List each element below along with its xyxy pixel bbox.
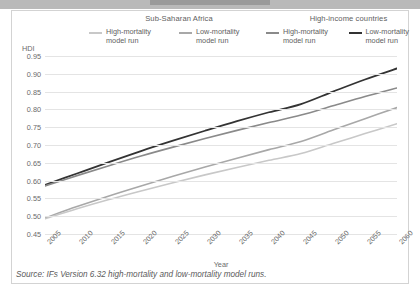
- y-axis-tick-label: 0.90: [27, 69, 41, 78]
- legend-item-hic-high-mortality[interactable]: High-mortality model run: [266, 28, 349, 45]
- legend-swatch-line-icon: [179, 32, 192, 34]
- y-axis-tick-label: 0.70: [27, 141, 41, 150]
- legend-group-title: Sub-Saharan Africa: [89, 14, 269, 23]
- legend-label-line2: model run: [106, 36, 138, 45]
- legend-swatch-line-icon: [266, 32, 279, 34]
- legend-label-line2: model run: [366, 36, 398, 45]
- y-axis-tick-label: 0.50: [27, 212, 41, 221]
- legend-item-label: Low-mortality model run: [366, 28, 409, 45]
- top-gray-band: [0, 0, 420, 9]
- legend-item-label: High-mortality model run: [106, 28, 151, 45]
- figure-container: Sub-Saharan Africa High-mortality model …: [0, 0, 420, 295]
- y-axis-tick-label: 0.45: [27, 230, 41, 239]
- gridline: [45, 145, 397, 146]
- top-band-highlight: [150, 0, 270, 5]
- gridline: [45, 127, 397, 128]
- legend-label-line2: model run: [196, 36, 228, 45]
- source-note: Source: IFs Version 6.32 high-mortality …: [16, 270, 266, 279]
- legend-label-line2: model run: [283, 36, 315, 45]
- legend-item-label: Low-mortality model run: [196, 28, 239, 45]
- legend-item-hic-low-mortality[interactable]: Low-mortality model run: [349, 28, 420, 45]
- gridline: [45, 74, 397, 75]
- gridline: [45, 109, 397, 110]
- y-axis-tick-label: 0.95: [27, 52, 41, 61]
- y-axis-tick-label: 0.55: [27, 194, 41, 203]
- legend-group-sub-saharan-africa: Sub-Saharan Africa High-mortality model …: [89, 14, 269, 45]
- gridline: [45, 163, 397, 164]
- gridline: [45, 216, 397, 217]
- gridline: [45, 198, 397, 199]
- gridline: [45, 181, 397, 182]
- legend-item-label: High-mortality model run: [283, 28, 328, 45]
- y-axis-tick-label: 0.60: [27, 176, 41, 185]
- legend-item-ssa-high-mortality[interactable]: High-mortality model run: [89, 28, 179, 45]
- y-axis-tick-label: 0.65: [27, 158, 41, 167]
- legend-swatch-line-icon: [89, 32, 102, 34]
- legend-swatch-line-icon: [349, 32, 362, 34]
- y-axis-tick-label: 0.85: [27, 87, 41, 96]
- legend-item-ssa-low-mortality[interactable]: Low-mortality model run: [179, 28, 269, 45]
- legend-group-high-income-countries: High-income countries High-mortality mod…: [266, 14, 420, 45]
- y-axis-tick-label: 0.80: [27, 105, 41, 114]
- y-axis-tick-label: 0.75: [27, 123, 41, 132]
- legend-group-title: High-income countries: [266, 14, 420, 23]
- gridline: [45, 56, 397, 57]
- x-axis-label: Year: [45, 260, 397, 269]
- series-line: [45, 124, 397, 219]
- gridline: [45, 92, 397, 93]
- plot-area: Year 0.950.900.850.800.750.700.650.600.5…: [45, 56, 397, 234]
- chart-legend: Sub-Saharan Africa High-mortality model …: [11, 14, 409, 58]
